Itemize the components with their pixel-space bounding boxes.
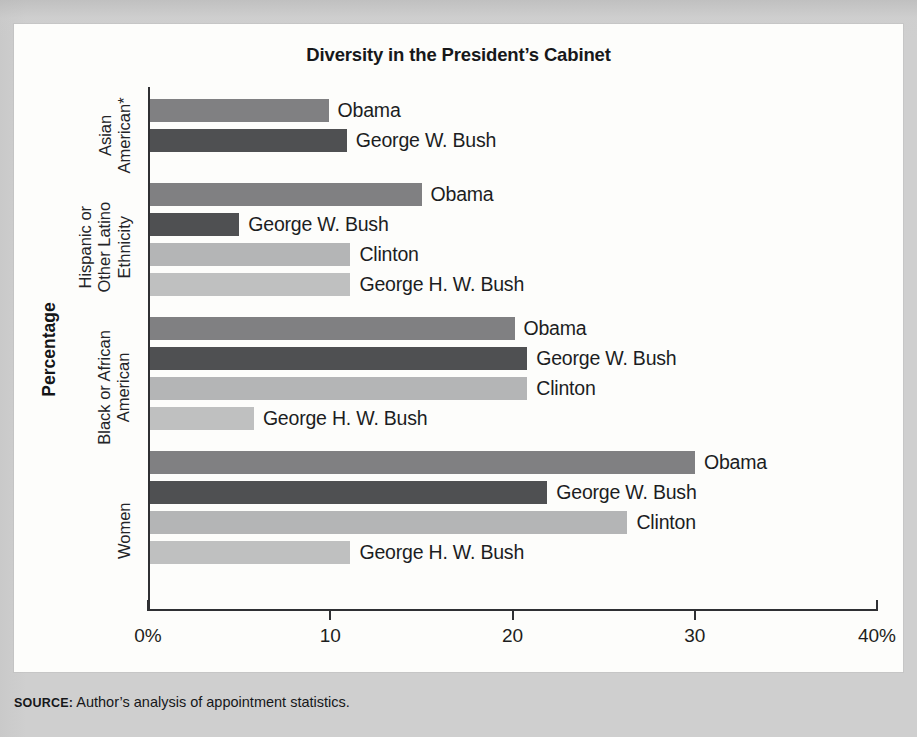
bar-row: George H. W. Bush <box>150 273 524 296</box>
bar-row: Clinton <box>150 243 419 266</box>
plot-area: 0%10203040% ObamaGeorge W. BushObamaGeor… <box>148 87 877 611</box>
bar-label: George W. Bush <box>248 213 388 236</box>
source-text: Author’s analysis of appointment statist… <box>73 694 350 710</box>
bar-row: George W. Bush <box>150 213 389 236</box>
x-axis-tick-label: 40% <box>858 625 896 647</box>
bar <box>150 317 515 340</box>
bar-row: George W. Bush <box>150 347 677 370</box>
bar-group: ObamaGeorge W. BushClintonGeorge H. W. B… <box>150 183 877 303</box>
bar-row: Obama <box>150 451 767 474</box>
bar-label: Obama <box>524 317 587 340</box>
bar-row: Obama <box>150 183 494 206</box>
bar <box>150 213 239 236</box>
bar-label: Clinton <box>359 243 418 266</box>
bar-row: George H. W. Bush <box>150 407 427 430</box>
bar-row: Clinton <box>150 511 696 534</box>
x-axis-tick-label: 0% <box>134 625 161 647</box>
bar-row: Obama <box>150 99 401 122</box>
bar <box>150 377 527 400</box>
bar <box>150 511 627 534</box>
category-label: Black or AfricanAmerican <box>95 330 134 445</box>
bar-row: George H. W. Bush <box>150 541 524 564</box>
x-axis-tick <box>512 611 514 620</box>
bar-group: ObamaGeorge W. Bush <box>150 99 877 159</box>
bar-row: George W. Bush <box>150 481 697 504</box>
bar <box>150 183 422 206</box>
category-label: AsianAmerican* <box>95 97 134 173</box>
bar-group: ObamaGeorge W. BushClintonGeorge H. W. B… <box>150 451 877 571</box>
category-label-line: Asian <box>95 97 114 173</box>
category-label-line: American* <box>115 97 134 173</box>
bar-row: George W. Bush <box>150 129 496 152</box>
category-label-line: Ethnicity <box>115 202 134 293</box>
bar <box>150 99 329 122</box>
bar-label: George W. Bush <box>356 129 496 152</box>
x-axis-tick <box>876 600 878 611</box>
bar-label: George W. Bush <box>556 481 696 504</box>
bar <box>150 407 254 430</box>
bar-label: George H. W. Bush <box>359 541 524 564</box>
chart-title: Diversity in the President’s Cabinet <box>14 44 903 66</box>
bar-label: Obama <box>338 99 401 122</box>
bar <box>150 347 527 370</box>
x-axis-tick <box>147 600 149 611</box>
bar <box>150 243 350 266</box>
category-label-line: Hispanic or <box>76 202 95 293</box>
bar <box>150 481 547 504</box>
bar-label: Clinton <box>536 377 595 400</box>
bar <box>150 541 350 564</box>
x-axis-tick-label: 30 <box>684 625 705 647</box>
bar-label: George W. Bush <box>536 347 676 370</box>
bar-group: ObamaGeorge W. BushClintonGeorge H. W. B… <box>150 317 877 437</box>
category-label: Hispanic orOther LatinoEthnicity <box>76 202 134 293</box>
bar <box>150 273 350 296</box>
figure-card: Diversity in the President’s Cabinet Per… <box>14 24 903 672</box>
bar-row: Obama <box>150 317 586 340</box>
x-axis-tick-label: 20 <box>502 625 523 647</box>
source-note: SOURCE: Author’s analysis of appointment… <box>14 694 350 710</box>
bar-label: Obama <box>431 183 494 206</box>
source-label: SOURCE: <box>14 696 73 710</box>
category-label-line: Black or African <box>95 330 114 445</box>
bar-label: George H. W. Bush <box>359 273 524 296</box>
x-axis-tick-label: 10 <box>320 625 341 647</box>
category-label-line: Other Latino <box>95 202 114 293</box>
bar-row: Clinton <box>150 377 596 400</box>
bar <box>150 129 347 152</box>
category-label-line: Women <box>115 502 134 559</box>
bar <box>150 451 695 474</box>
category-label: Women <box>115 502 134 559</box>
y-axis-title: Percentage <box>38 302 59 396</box>
category-label-line: American <box>114 330 133 445</box>
bar-label: Obama <box>704 451 767 474</box>
x-axis-tick <box>329 611 331 620</box>
x-axis-tick <box>694 611 696 620</box>
bar-label: George H. W. Bush <box>263 407 428 430</box>
bar-label: Clinton <box>636 511 695 534</box>
